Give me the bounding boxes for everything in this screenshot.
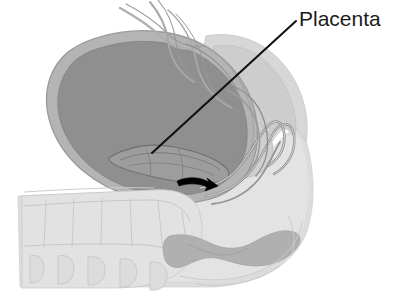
anatomy-diagram [0, 0, 401, 301]
medical-illustration-figure: Placenta [0, 0, 401, 301]
placenta-label: Placenta [299, 8, 381, 29]
